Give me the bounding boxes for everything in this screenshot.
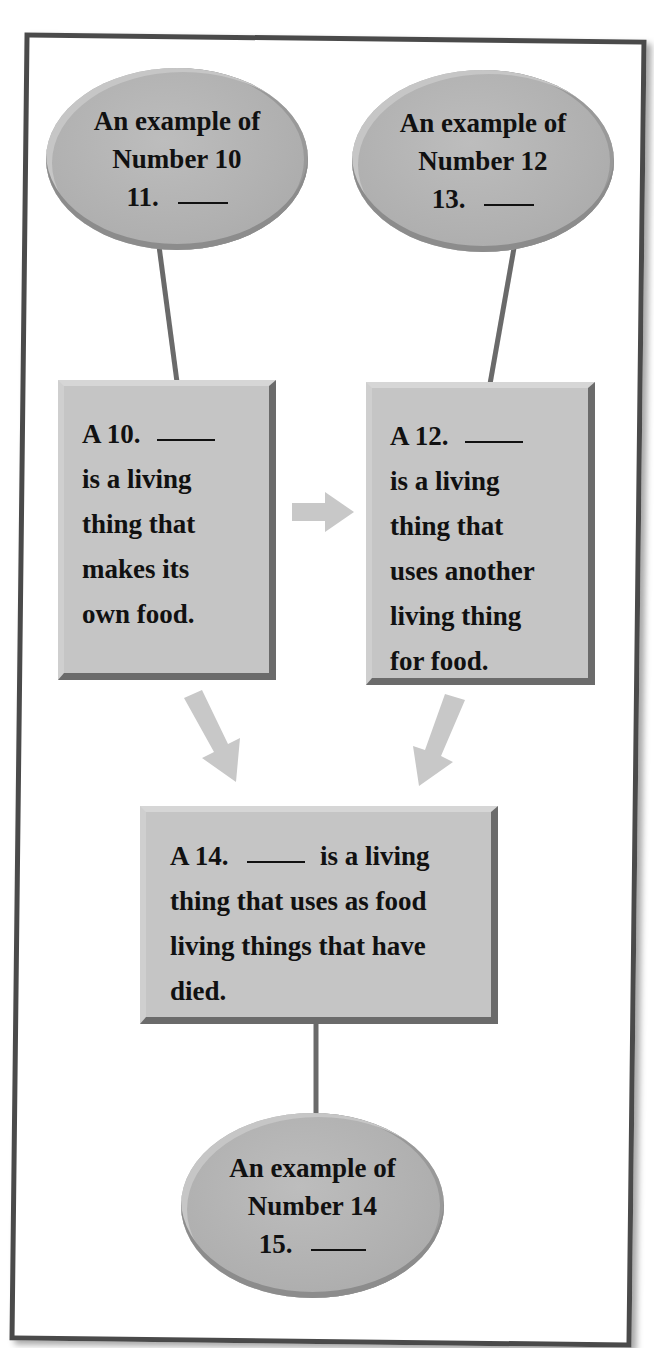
box-line: is a living <box>82 457 251 502</box>
answer-line-11: 11. <box>126 178 227 216</box>
box-first-line: A 10. <box>82 412 251 457</box>
blank-10[interactable] <box>157 439 215 441</box>
blank-12[interactable] <box>465 441 523 443</box>
blank-13[interactable] <box>484 204 534 206</box>
box-line: uses another <box>390 549 570 594</box>
box-line: living thing <box>390 594 570 639</box>
ellipse-example-number-10: An example of Number 10 11. <box>46 68 308 250</box>
answer-line-15: 15. <box>259 1225 367 1263</box>
answer-line-13: 13. <box>432 180 535 218</box>
ellipse-line: An example of <box>400 104 566 142</box>
blank-11[interactable] <box>178 202 228 204</box>
ellipse-line: Number 12 <box>418 142 547 180</box>
ellipse-example-number-14: An example of Number 14 15. <box>181 1113 444 1298</box>
box-line: thing that <box>390 504 570 549</box>
blank-14[interactable] <box>247 861 305 863</box>
ellipse-line: Number 10 <box>112 140 241 178</box>
box-line: living things that have <box>170 924 473 969</box>
question-number: A 12. <box>390 421 449 451</box>
box-line: own food. <box>82 592 251 637</box>
box-line: for food. <box>390 639 570 684</box>
box-consumer: A 12. is a living thing that uses anothe… <box>366 382 595 685</box>
box-line: is a living <box>390 459 570 504</box>
box-decomposer: A 14. is a living thing that uses as foo… <box>140 806 498 1024</box>
ellipse-example-number-12: An example of Number 12 13. <box>352 70 614 252</box>
ellipse-line: An example of <box>229 1149 395 1187</box>
blank-15[interactable] <box>311 1249 366 1251</box>
box-first-line: A 14. is a living <box>170 834 473 879</box>
box-line: thing that uses as food <box>170 879 473 924</box>
ellipse-line: An example of <box>94 102 260 140</box>
question-number: A 14. <box>170 841 229 871</box>
question-number: A 10. <box>82 419 141 449</box>
ellipse-line: Number 14 <box>248 1187 377 1225</box>
question-number: 13. <box>432 184 466 214</box>
question-number: 11. <box>126 182 158 212</box>
right-arrow-icon <box>290 490 356 536</box>
box-line: thing that <box>82 502 251 547</box>
box-line: is a living <box>320 841 430 871</box>
box-producer: A 10. is a living thing that makes its o… <box>58 380 276 680</box>
box-line: died. <box>170 969 473 1014</box>
down-arrow-left-icon <box>170 688 250 788</box>
down-arrow-right-icon <box>405 688 475 793</box>
question-number: 15. <box>259 1229 293 1259</box>
box-first-line: A 12. <box>390 414 570 459</box>
box-line: makes its <box>82 547 251 592</box>
